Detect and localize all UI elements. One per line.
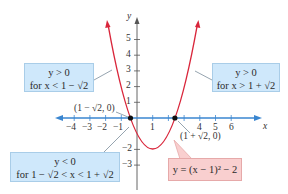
callout-line1: y < 0 [11,155,119,168]
x-tick-label: 1 [150,122,155,132]
y-tick-label: 4 [126,49,131,59]
x-tick-label: −2 [97,122,107,132]
right-root-label: (1 + √2, 0) [180,131,221,141]
x-tick-label: −3 [82,122,92,132]
callout-line2: for 1 − √2 < x < 1 + √2 [11,168,119,181]
left-root-point [128,115,133,120]
y-tick-label: −3 [122,159,132,169]
y-tick-label: 5 [126,33,131,43]
negative-callout: y < 0 for 1 − √2 < x < 1 + √2 [10,152,120,182]
y-tick-label: 2 [126,80,131,90]
equation-text: y = (x − 1)² − 2 [169,163,241,176]
equation-callout: y = (x − 1)² − 2 [168,158,242,181]
x-axis-left-arrow-icon [55,115,63,121]
callout-line1: y > 0 [213,66,279,79]
equation-callout-pointer [174,140,192,159]
y-axis-label: y [127,11,131,21]
x-axis-label: x [263,121,267,131]
y-axis-arrow-icon [135,17,140,24]
x-tick-label: −4 [66,122,76,132]
positive-left-callout: y > 0 for x < 1 − √2 [24,63,94,92]
x-tick-label: −1 [113,122,123,132]
curve-left-arrow-icon [105,20,110,28]
y-tick-label: 1 [126,96,131,106]
y-tick-label: −2 [122,143,132,153]
right-root-point [172,115,177,120]
callout-line1: y > 0 [25,66,93,79]
curve-right-arrow-icon [195,20,200,28]
x-tick-label: 6 [229,122,234,132]
y-tick-label: 3 [126,64,131,74]
callout-line2: for x > 1 + √2 [213,79,279,92]
callout-line2: for x < 1 − √2 [25,79,93,92]
x-axis-right-arrow-icon [254,115,262,121]
positive-right-callout: y > 0 for x > 1 + √2 [212,63,280,92]
left-root-label: (1 − √2, 0) [74,103,115,113]
